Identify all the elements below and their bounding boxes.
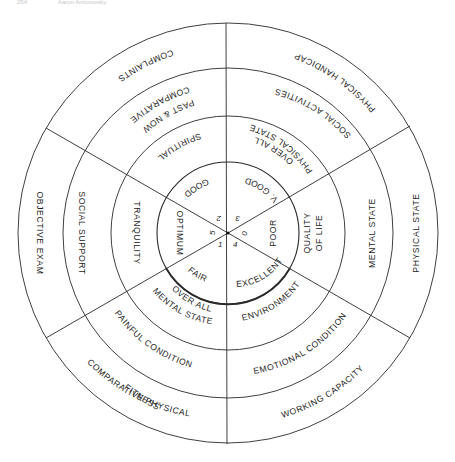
outer-label-complaints: COMPLAINTS bbox=[116, 48, 175, 84]
inner-label-good: GOOD bbox=[182, 177, 210, 200]
outer-label-objective-exam: OBJECTIVE EXAM bbox=[35, 192, 45, 275]
inner-label-very-good: V. GOOD bbox=[243, 176, 280, 205]
second-label-tranquility: TRANQUILITY bbox=[132, 201, 142, 264]
inner-label-optimum: OPTIMUM bbox=[175, 211, 185, 256]
third-label-social-activities: SOCIAL ACTIVITIES bbox=[273, 87, 352, 141]
outer-label-comparative-physical: COMPARATIVE PHYSICAL bbox=[85, 357, 191, 419]
running-title: Aaron Antonovsky bbox=[58, 0, 106, 5]
inner-label-poor: POOR bbox=[268, 219, 278, 247]
quality-of-life-wheel: 254 Aaron Antonovsky 3 0 4 1 5 2 GOOD V.… bbox=[0, 0, 455, 462]
sector-number-top-left: 2 bbox=[216, 214, 222, 223]
page-number: 254 bbox=[17, 0, 28, 5]
second-label-quality: QUALITY bbox=[302, 213, 312, 254]
sector-number-left: 5 bbox=[208, 230, 217, 235]
sector-number-right: 0 bbox=[240, 231, 249, 236]
sector-number-top-right: 3 bbox=[235, 214, 240, 223]
sector-number-bottom-right: 4 bbox=[233, 240, 238, 249]
third-label-mental-state: MENTAL STATE bbox=[367, 198, 377, 268]
third-label-social-support: SOCIAL SUPPORT bbox=[77, 191, 87, 275]
second-label-of-life: OF LIFE bbox=[314, 215, 324, 252]
sector-number-bottom-left: 1 bbox=[218, 240, 222, 249]
inner-label-fair: FAIR bbox=[186, 265, 209, 284]
third-label-painful-condition: PAINFUL CONDITION bbox=[113, 308, 194, 370]
outer-label-physical-state: PHYSICAL STATE bbox=[411, 193, 421, 272]
outer-label-fitness: FITNESS bbox=[123, 382, 162, 412]
outer-label-working-capacity: WORKING CAPACITY bbox=[280, 363, 366, 420]
hub-dot bbox=[226, 231, 229, 234]
